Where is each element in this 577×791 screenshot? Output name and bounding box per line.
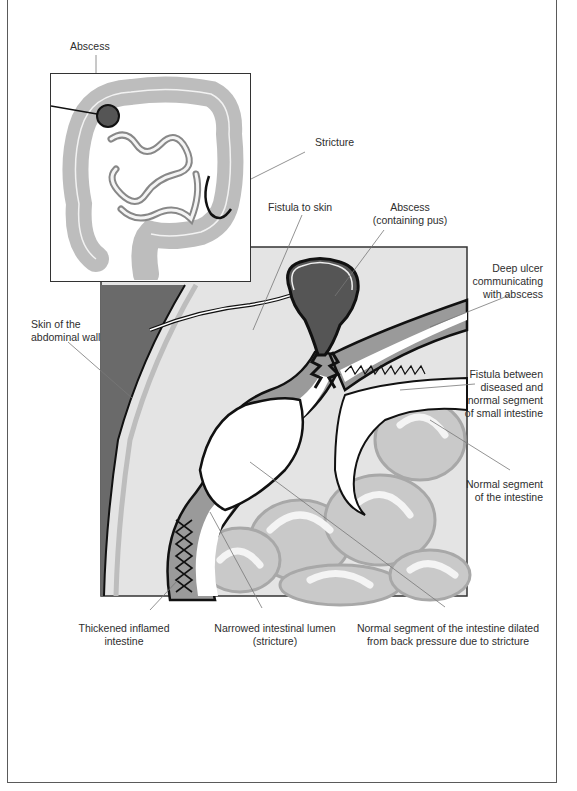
fistula-between-line4: of small intestine: [465, 407, 543, 420]
skin-line1: Skin of the: [31, 318, 100, 331]
narrowed-line1: Narrowed intestinal lumen: [210, 622, 340, 635]
label-dilated-segment: Normal segment of the intestine dilated …: [348, 622, 548, 648]
label-abscess-inset: Abscess: [70, 40, 110, 53]
normal-segment-line2: of the intestine: [466, 491, 543, 504]
fistula-between-line1: Fistula between: [465, 368, 543, 381]
inset-abscess: [97, 105, 119, 127]
label-narrowed-lumen: Narrowed intestinal lumen (stricture): [210, 622, 340, 648]
label-fistula-between: Fistula between diseased and normal segm…: [465, 368, 543, 420]
label-stricture: Stricture: [315, 136, 354, 149]
fistula-between-line3: normal segment: [465, 394, 543, 407]
narrowed-line2: (stricture): [210, 635, 340, 648]
label-deep-ulcer: Deep ulcer communicating with abscess: [472, 262, 543, 301]
dilated-line1: Normal segment of the intestine dilated: [348, 622, 548, 635]
abscess-main-line2: (containing pus): [370, 214, 450, 227]
thickened-line1: Thickened inflamed: [69, 622, 179, 635]
label-normal-segment: Normal segment of the intestine: [466, 478, 543, 504]
label-abscess-main: Abscess (containing pus): [370, 201, 450, 227]
fistula-between-line2: diseased and: [465, 381, 543, 394]
normal-segment-line1: Normal segment: [466, 478, 543, 491]
dilated-line2: from back pressure due to stricture: [348, 635, 548, 648]
deep-ulcer-line3: with abscess: [472, 288, 543, 301]
deep-ulcer-line2: communicating: [472, 275, 543, 288]
intestine-overview-illustration: [51, 74, 249, 280]
label-skin-abdominal-wall: Skin of the abdominal wall: [31, 318, 100, 344]
skin-line2: abdominal wall: [31, 331, 100, 344]
label-fistula-to-skin: Fistula to skin: [268, 201, 332, 214]
label-thickened-inflamed: Thickened inflamed intestine: [69, 622, 179, 648]
thickened-line2: intestine: [69, 635, 179, 648]
deep-ulcer-line1: Deep ulcer: [472, 262, 543, 275]
abscess-main-line1: Abscess: [370, 201, 450, 214]
inset-intestine-overview: [50, 73, 251, 282]
